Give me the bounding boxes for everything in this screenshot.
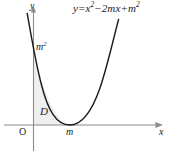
y-axis-label: y [30,1,34,11]
x-axis [4,122,163,128]
region-d-label: D [40,106,48,117]
equation-text: y=x [73,2,91,14]
equation-label: y=x2−2mx+m2 [73,3,140,14]
origin-label: O [19,127,26,137]
math-figure: y=x2−2mx+m2 y x O m2 m D [0,0,172,162]
graph-canvas [0,0,172,162]
vertex-tick-label: m [66,127,73,137]
equation-text-mid: −2mx+m [94,2,136,14]
x-axis-label: x [159,127,163,137]
y-intercept-label: m2 [36,42,47,52]
equation-exponent-2: 2 [136,1,140,9]
y-intercept-exponent: 2 [43,40,46,47]
